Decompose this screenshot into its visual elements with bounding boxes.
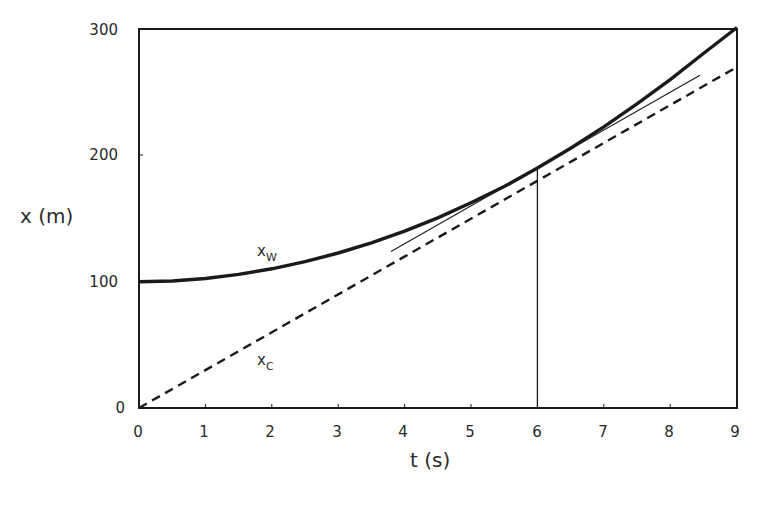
x-tick-4: 4 xyxy=(398,423,408,441)
x-tick-3: 3 xyxy=(332,423,342,441)
series-xc-line xyxy=(139,67,737,408)
x-tick-0: 0 xyxy=(133,423,143,441)
x-tick-6: 6 xyxy=(532,423,542,441)
y-tick-labels: 0 100 200 300 xyxy=(89,21,125,417)
chart: 0 1 2 3 4 5 6 7 8 9 0 100 200 300 x (m) … xyxy=(0,0,757,517)
x-tick-2: 2 xyxy=(265,423,275,441)
xc-label: xC xyxy=(257,351,274,373)
y-axis-label: x (m) xyxy=(20,204,73,228)
x-tick-7: 7 xyxy=(598,423,608,441)
x-tick-5: 5 xyxy=(465,423,475,441)
x-tick-8: 8 xyxy=(664,423,674,441)
y-tick-200: 200 xyxy=(89,146,118,164)
x-axis-label: t (s) xyxy=(410,448,450,472)
y-tick-100: 100 xyxy=(89,273,118,291)
y-tick-300: 300 xyxy=(89,21,118,39)
x-tick-9: 9 xyxy=(730,423,740,441)
xw-label: xW xyxy=(257,242,277,264)
x-tick-1: 1 xyxy=(199,423,209,441)
series-xw-curve xyxy=(139,28,737,282)
y-tick-0: 0 xyxy=(115,399,125,417)
x-tick-labels: 0 1 2 3 4 5 6 7 8 9 xyxy=(133,423,740,441)
